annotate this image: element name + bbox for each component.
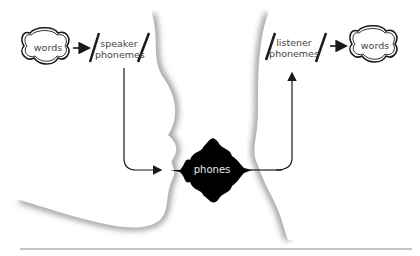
- speaker-words-label: words: [30, 42, 66, 53]
- speaker-phonemes-line1: speaker: [97, 38, 141, 49]
- listener-phonemes-line1: listener: [270, 37, 318, 48]
- speaker-phonemes-line2: phonemes: [95, 49, 143, 60]
- phones-label: phones: [192, 164, 232, 175]
- listener-phonemes-line2: phonemes: [268, 48, 320, 59]
- listener-words-label: words: [357, 40, 393, 51]
- diagram-canvas: [0, 0, 420, 256]
